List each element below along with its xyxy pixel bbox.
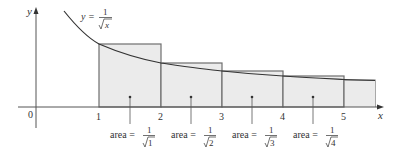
area-label-prefix: area = — [171, 129, 196, 140]
area-label-1: area = 1 1 — [110, 125, 155, 148]
riemann-sum-diagram: y x 0 1 2 3 4 5 y = 1 x area = 1 1 area … — [0, 0, 402, 162]
area-label-num: 1 — [330, 125, 335, 135]
area-label-num: 1 — [208, 125, 213, 135]
area-label-num: 1 — [269, 125, 274, 135]
curve-label: y = 1 x — [80, 7, 112, 30]
area-label-den: 3 — [270, 138, 275, 148]
x-tick-2: 2 — [158, 111, 163, 122]
x-tick-4: 4 — [280, 111, 285, 122]
y-axis-arrow-icon — [34, 7, 39, 14]
x-axis-label: x — [377, 109, 383, 121]
area-label-den: 2 — [209, 138, 214, 148]
x-tick-1: 1 — [96, 111, 101, 122]
x-tick-3: 3 — [219, 111, 224, 122]
area-label-prefix: area = — [293, 129, 318, 140]
area-label-prefix: area = — [232, 129, 257, 140]
y-axis-label: y — [26, 5, 32, 17]
curve-label-num: 1 — [103, 7, 108, 17]
rect-4 — [283, 76, 344, 107]
area-label-den: 4 — [331, 138, 336, 148]
area-label-3: area = 1 3 — [232, 125, 277, 148]
x-tick-5: 5 — [341, 111, 346, 122]
area-label-num: 1 — [147, 125, 152, 135]
curve-label-prefix: y = — [80, 11, 95, 22]
area-label-den: 1 — [148, 138, 153, 148]
area-label-prefix: area = — [110, 129, 135, 140]
rect-3 — [222, 71, 283, 107]
area-label-4: area = 1 4 — [293, 125, 338, 148]
origin-label: 0 — [28, 109, 33, 120]
rectangles — [99, 44, 375, 107]
curve-label-den: x — [104, 20, 109, 30]
area-label-2: area = 1 2 — [171, 125, 216, 148]
